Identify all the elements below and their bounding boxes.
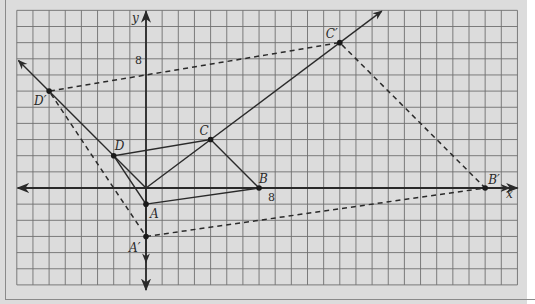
label-c-prime: C′ [326,27,338,41]
y-axis-label: y [131,11,139,25]
label-d-prime: D′ [33,94,47,108]
label-a: A [149,207,159,221]
label-b: B [258,172,268,186]
x-axis-label: x [506,187,513,201]
grid [17,10,518,285]
point-b [256,185,262,191]
axes [18,11,518,290]
label-b-prime: B′ [487,173,500,187]
ray-through-d [18,60,146,188]
label-a-prime: A′ [128,241,141,255]
y-tick-8: 8 [135,54,142,67]
point-c-prime [337,40,343,46]
point-b-prime [482,185,488,191]
point-a-prime [143,234,149,240]
point-labels: ABCDA′B′C′D′ [33,27,500,256]
label-d: D [114,139,125,153]
point-d [111,153,117,159]
point-d-prime [46,88,52,94]
point-c [208,137,214,143]
label-c: C [200,124,209,138]
rays-from-origin [18,11,509,262]
ray-through-c [146,11,382,188]
point-a [143,201,149,207]
x-tick-8: 8 [268,191,275,204]
